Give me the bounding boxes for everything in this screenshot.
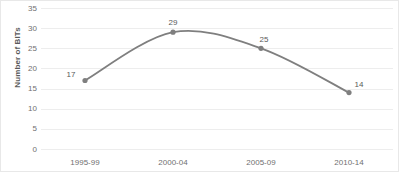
y-tick-label: 25	[13, 44, 37, 53]
y-axis-tick-labels: 35302520151050	[9, 1, 37, 172]
y-tick-label: 10	[13, 104, 37, 113]
data-point-label: 25	[249, 35, 279, 44]
y-tick-label: 30	[13, 24, 37, 33]
gridline	[41, 149, 393, 150]
y-tick-label: 20	[13, 64, 37, 73]
x-axis-tick-labels: 1995-992000-042005-092010-14	[1, 158, 399, 170]
series-line	[41, 8, 393, 149]
series-path	[85, 31, 349, 93]
line-chart: Number of BITs 35302520151050 17292514 1…	[0, 0, 399, 172]
y-tick-label: 35	[13, 4, 37, 13]
x-tick-label: 2000-04	[133, 158, 213, 167]
data-point-label: 17	[56, 70, 86, 79]
data-point-marker	[346, 90, 351, 95]
x-tick-label: 2010-14	[309, 158, 389, 167]
data-point-label: 29	[158, 18, 188, 27]
data-point-marker	[82, 78, 87, 83]
y-tick-label: 15	[13, 84, 37, 93]
x-tick-label: 1995-99	[45, 158, 125, 167]
data-point-marker	[170, 30, 175, 35]
plot-area: 17292514	[41, 8, 393, 149]
data-point-label: 14	[344, 80, 374, 89]
y-tick-label: 5	[13, 124, 37, 133]
data-point-marker	[258, 46, 263, 51]
x-tick-label: 2005-09	[221, 158, 301, 167]
y-tick-label: 0	[13, 145, 37, 154]
